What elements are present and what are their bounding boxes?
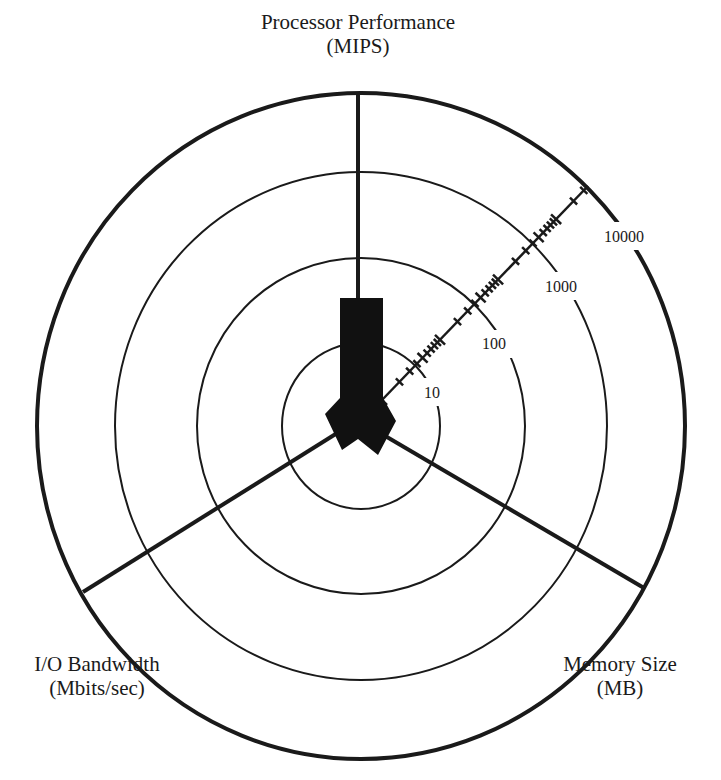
scale-label-100: 100 [482, 335, 506, 353]
axis-label-processor: Processor Performance (MIPS) [238, 10, 478, 58]
axis-io [83, 420, 358, 592]
scale-label-1000: 1000 [545, 278, 577, 296]
axis-label-memory-line2: (MB) [520, 676, 720, 700]
scale-label-10000: 10000 [604, 228, 644, 246]
axis-memory [358, 420, 644, 588]
data-polygon [325, 298, 396, 455]
axis-label-io: I/O Bandwidth (Mbits/sec) [2, 652, 192, 700]
axis-label-processor-line1: Processor Performance [238, 10, 478, 34]
axis-label-memory-line1: Memory Size [520, 652, 720, 676]
kiviat-diagram: Processor Performance (MIPS) I/O Bandwid… [0, 0, 721, 780]
axis-label-memory: Memory Size (MB) [520, 652, 720, 700]
axis-label-processor-line2: (MIPS) [238, 34, 478, 58]
scale-label-10: 10 [424, 384, 440, 402]
axis-label-io-line2: (Mbits/sec) [2, 676, 192, 700]
axis-label-io-line1: I/O Bandwidth [2, 652, 192, 676]
